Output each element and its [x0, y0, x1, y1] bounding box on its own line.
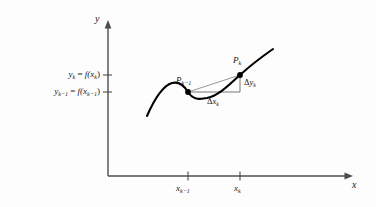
y-km1-func: f(x	[78, 86, 88, 96]
y-tick-label-y-k: yk = f(xk)	[22, 70, 100, 79]
y-tick-label-y-k-minus-1: yk−1 = f(xk−1)	[6, 87, 100, 96]
y-axis-arrowhead	[105, 20, 112, 29]
figure-canvas	[0, 0, 376, 207]
p-km1-var: P	[176, 75, 182, 85]
x-km1-subscript: k−1	[180, 188, 190, 194]
delta-y-label: Δyk	[244, 78, 256, 87]
y-axis-label: y	[95, 14, 99, 24]
p-k-subscript: k	[239, 60, 242, 66]
y-k-subscript: k	[72, 74, 75, 80]
p-km1-subscript: k−1	[182, 80, 192, 86]
delta-x-label: Δxk	[207, 97, 219, 106]
point-p-k-minus-1-marker	[185, 89, 191, 95]
point-label-p-k-minus-1: Pk−1	[176, 76, 191, 85]
secant-line-figure: y x yk = f(xk) yk−1 = f(xk−1) xk−1 xk Pk…	[0, 0, 376, 207]
p-k-var: P	[233, 55, 239, 65]
x-k-subscript: k	[238, 188, 241, 194]
y-km1-func-subscript: k−1	[87, 91, 97, 97]
y-k-func: f(x	[85, 69, 95, 79]
y-km1-subscript: k−1	[58, 91, 68, 97]
x-axis-label: x	[352, 180, 356, 190]
point-p-k-marker	[237, 72, 243, 78]
x-tick-label-x-k: xk	[234, 184, 241, 193]
y-km1-func-close: )	[97, 86, 100, 96]
delta-x-subscript: k	[216, 101, 219, 107]
x-tick-label-x-k-minus-1: xk−1	[176, 184, 190, 193]
point-label-p-k: Pk	[233, 56, 241, 65]
y-k-func-subscript: k	[94, 74, 97, 80]
delta-y-subscript: k	[253, 82, 256, 88]
y-k-func-close: )	[97, 69, 100, 79]
